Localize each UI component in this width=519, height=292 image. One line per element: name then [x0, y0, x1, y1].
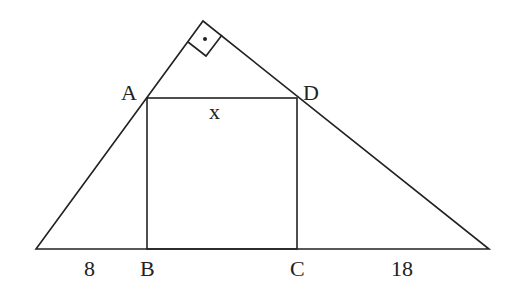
label-x: x — [209, 101, 220, 123]
label-b: B — [140, 258, 155, 280]
inscribed-square — [147, 98, 297, 249]
label-18: 18 — [391, 258, 413, 280]
triangle-square-figure — [0, 0, 519, 292]
outer-triangle — [36, 21, 489, 249]
right-angle-dot — [203, 37, 207, 41]
label-d: D — [303, 82, 319, 104]
label-c: C — [290, 258, 305, 280]
label-8: 8 — [84, 258, 95, 280]
label-a: A — [121, 82, 137, 104]
diagram-canvas: A D x 8 B C 18 — [0, 0, 519, 292]
